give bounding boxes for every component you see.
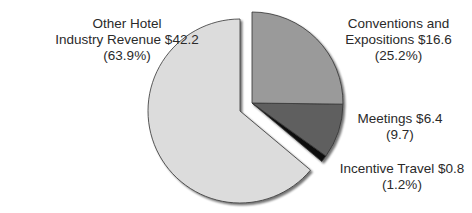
label-other-line3: (63.9%) [42,48,212,64]
label-incentive-travel: Incentive Travel $0.8 (1.2%) [328,161,472,193]
label-other-line1: Other Hotel [42,16,212,32]
label-meetings: Meetings $6.4 (9.7) [350,111,450,143]
label-other-line2: Industry Revenue $42.2 [42,32,212,48]
label-other: Other Hotel Industry Revenue $42.2 (63.9… [42,16,212,64]
label-incentive-line2: (1.2%) [328,177,472,193]
label-meetings-line1: Meetings $6.4 [350,111,450,127]
label-conventions-line3: (25.2%) [326,48,471,64]
label-incentive-line1: Incentive Travel $0.8 [328,161,472,177]
label-conventions-line2: Expositions $16.6 [326,32,471,48]
label-conventions: Conventions and Expositions $16.6 (25.2%… [326,16,471,64]
label-meetings-line2: (9.7) [350,127,450,143]
label-conventions-line1: Conventions and [326,16,471,32]
